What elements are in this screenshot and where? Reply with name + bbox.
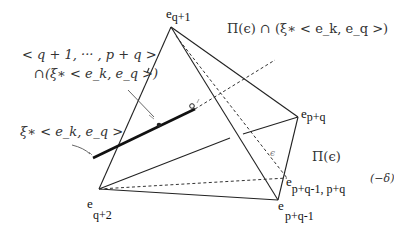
vertex-label-p-plus-q-minus-1-p-plus-q: ep+q-1, p+q — [286, 175, 345, 188]
edge-top-right — [171, 27, 298, 117]
vertex-subscript: q+1 — [172, 10, 191, 24]
vertex-subscript: p+q — [307, 110, 326, 124]
label-delta: (−δ) — [370, 173, 394, 184]
xi-endpoint — [190, 104, 195, 109]
tick-end — [197, 99, 199, 103]
xi-point — [157, 123, 162, 128]
leader-xi — [72, 145, 90, 154]
vertex-subscript: p+q-1, p+q — [292, 182, 346, 196]
vertex-letter: e — [166, 6, 172, 21]
dashed-left-mid — [99, 178, 287, 189]
edge-left-bottom — [99, 189, 278, 200]
label-pi-eps: Π(ϵ) — [312, 150, 341, 163]
vertex-letter: e — [286, 174, 292, 189]
vertex-subscript: q+2 — [93, 208, 112, 222]
label-xi: ξ∗ < e_k, e_q > — [20, 125, 123, 138]
vertex-letter: e — [301, 106, 307, 121]
vertex-label-q-plus-2: e q+2 — [87, 197, 106, 223]
label-pi-intersection: Π(ϵ) ∩ (ξ∗ < e_k, e_q >) — [227, 22, 388, 35]
label-span-line1: < q + 1, ··· , p + q > — [22, 48, 157, 61]
vertex-letter: e — [278, 198, 284, 213]
vertex-label-q-plus-1: eq+1 — [166, 7, 191, 20]
vertex-subscript: p+q-1 — [285, 209, 314, 223]
vertex-label-p-plus-q: ep+q — [301, 107, 326, 120]
vertex-letter: e — [87, 196, 93, 211]
label-eps-small: ϵ — [270, 149, 275, 158]
label-span-line2: ∩(ξ∗ < e_k, e_q >) — [34, 67, 158, 80]
vertex-label-p-plus-q-minus-1: e p+q-1 — [278, 199, 307, 225]
edge-left-right-b — [243, 117, 298, 134]
